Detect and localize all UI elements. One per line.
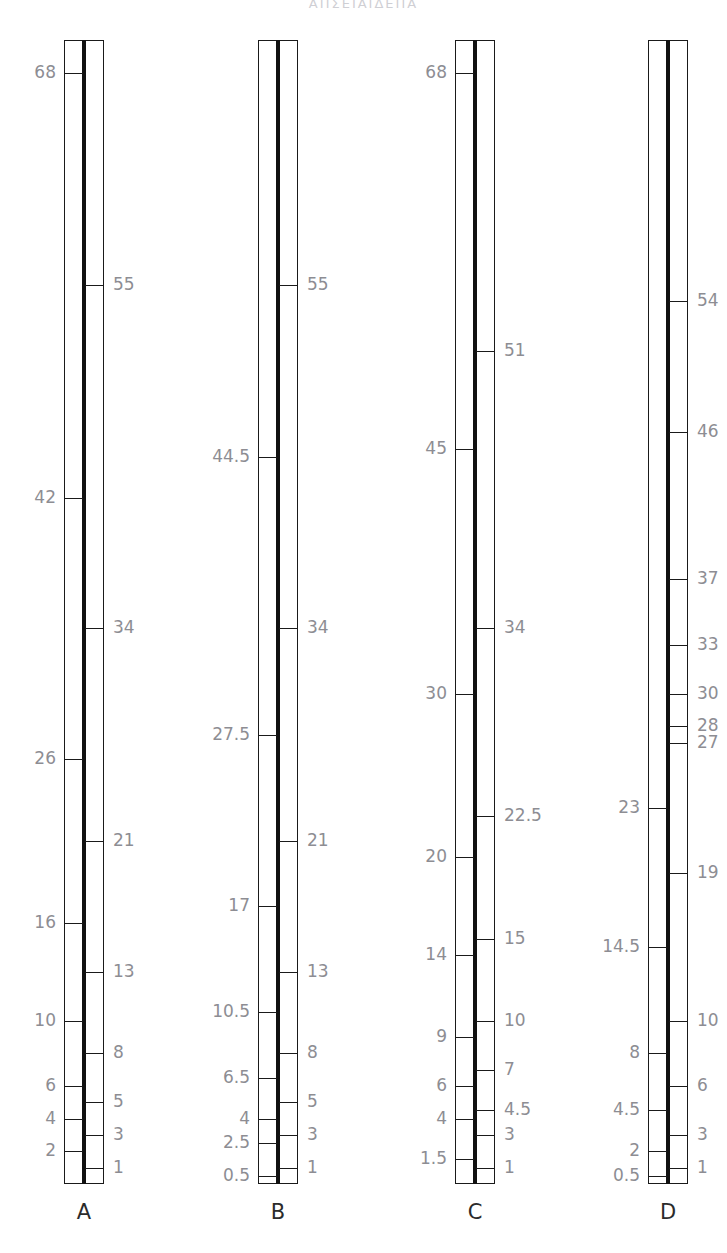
- center-axis-line-a: [82, 40, 86, 1184]
- tick-left-c-6: [455, 1086, 474, 1087]
- tick-label-left-c-14: 14: [357, 946, 447, 963]
- tick-right-c-34: [476, 628, 495, 629]
- tick-right-c-1: [476, 1168, 495, 1169]
- tick-label-right-d-46: 46: [697, 423, 727, 440]
- tick-left-c-14: [455, 955, 474, 956]
- tick-right-b-34: [279, 628, 298, 629]
- tick-left-d-2: [648, 1151, 667, 1152]
- tick-right-a-55: [85, 285, 104, 286]
- tick-left-b-10.5: [258, 1012, 277, 1013]
- tick-right-c-7: [476, 1070, 495, 1071]
- tick-left-d-0.5: [648, 1176, 667, 1177]
- tick-left-d-4.5: [648, 1110, 667, 1111]
- tick-left-b-17: [258, 906, 277, 907]
- tick-label-left-a-6: 6: [0, 1077, 56, 1094]
- tick-label-right-b-55: 55: [307, 276, 397, 293]
- tick-label-right-b-3: 3: [307, 1126, 397, 1143]
- tick-label-left-b-17: 17: [160, 897, 250, 914]
- tick-right-d-33: [669, 645, 688, 646]
- tick-label-right-d-27: 27: [697, 734, 727, 751]
- tick-right-c-22.5: [476, 816, 495, 817]
- tick-label-left-c-4: 4: [357, 1110, 447, 1127]
- tick-label-right-d-33: 33: [697, 636, 727, 653]
- tick-right-b-8: [279, 1053, 298, 1054]
- tick-left-a-2: [64, 1151, 83, 1152]
- tick-label-left-b-27.5: 27.5: [160, 726, 250, 743]
- tick-right-c-3: [476, 1135, 495, 1136]
- tick-right-d-28: [669, 726, 688, 727]
- tick-right-d-27: [669, 743, 688, 744]
- tick-left-d-8: [648, 1053, 667, 1054]
- tick-label-left-c-9: 9: [357, 1028, 447, 1045]
- tick-label-left-d-4.5: 4.5: [550, 1101, 640, 1118]
- tick-label-left-b-6.5: 6.5: [160, 1069, 250, 1086]
- tick-label-left-c-20: 20: [357, 848, 447, 865]
- tick-label-right-d-3: 3: [697, 1126, 727, 1143]
- tick-label-right-c-34: 34: [504, 619, 594, 636]
- tick-right-d-3: [669, 1135, 688, 1136]
- tick-label-left-a-2: 2: [0, 1142, 56, 1159]
- figure-header-title: ΑΠΣΕΙΑΙΔΕΠΑ: [0, 0, 727, 10]
- tick-label-left-b-0.5: 0.5: [160, 1167, 250, 1184]
- tick-right-a-34: [85, 628, 104, 629]
- tick-label-left-a-10: 10: [0, 1012, 56, 1029]
- tick-right-b-13: [279, 972, 298, 973]
- tick-right-a-5: [85, 1102, 104, 1103]
- tick-right-d-19: [669, 873, 688, 874]
- tick-right-b-5: [279, 1102, 298, 1103]
- tick-left-c-30: [455, 694, 474, 695]
- tick-label-right-c-51: 51: [504, 342, 594, 359]
- tick-label-left-b-10.5: 10.5: [160, 1003, 250, 1020]
- tick-label-left-c-6: 6: [357, 1077, 447, 1094]
- column-label-d: D: [638, 1202, 698, 1223]
- tick-right-c-10: [476, 1021, 495, 1022]
- tick-label-right-b-8: 8: [307, 1044, 397, 1061]
- tick-label-right-d-30: 30: [697, 685, 727, 702]
- tick-label-right-d-19: 19: [697, 864, 727, 881]
- tick-left-b-27.5: [258, 735, 277, 736]
- tick-left-b-44.5: [258, 457, 277, 458]
- tick-label-right-b-5: 5: [307, 1093, 397, 1110]
- tick-label-left-a-68: 68: [0, 64, 56, 81]
- tick-left-b-4: [258, 1119, 277, 1120]
- tick-label-left-a-26: 26: [0, 750, 56, 767]
- tick-label-right-a-34: 34: [113, 619, 203, 636]
- tick-right-a-8: [85, 1053, 104, 1054]
- tick-left-c-1.5: [455, 1159, 474, 1160]
- tick-left-c-45: [455, 449, 474, 450]
- tick-label-right-c-3: 3: [504, 1126, 594, 1143]
- tick-label-right-b-13: 13: [307, 963, 397, 980]
- tick-label-left-b-44.5: 44.5: [160, 448, 250, 465]
- tick-right-b-55: [279, 285, 298, 286]
- tick-label-right-a-55: 55: [113, 276, 203, 293]
- figure-root: ΑΠΣΕΙΑΙΔΕΠΑ 6842261610642553421138531A44…: [0, 0, 727, 1253]
- tick-label-left-b-2.5: 2.5: [160, 1134, 250, 1151]
- tick-right-d-46: [669, 432, 688, 433]
- tick-right-d-54: [669, 301, 688, 302]
- tick-right-d-37: [669, 579, 688, 580]
- tick-right-a-13: [85, 972, 104, 973]
- column-label-b: B: [248, 1202, 308, 1223]
- tick-left-a-4: [64, 1119, 83, 1120]
- tick-right-d-6: [669, 1086, 688, 1087]
- tick-right-b-3: [279, 1135, 298, 1136]
- center-axis-line-d: [666, 40, 670, 1184]
- tick-right-b-1: [279, 1168, 298, 1169]
- tick-label-right-d-10: 10: [697, 1012, 727, 1029]
- tick-label-left-d-8: 8: [550, 1044, 640, 1061]
- column-label-a: A: [54, 1202, 114, 1223]
- tick-label-left-c-1.5: 1.5: [357, 1150, 447, 1167]
- tick-right-d-1: [669, 1168, 688, 1169]
- tick-left-a-6: [64, 1086, 83, 1087]
- tick-label-left-c-30: 30: [357, 685, 447, 702]
- center-axis-line-c: [473, 40, 477, 1184]
- tick-left-c-9: [455, 1037, 474, 1038]
- tick-label-right-b-21: 21: [307, 832, 397, 849]
- tick-label-left-d-0.5: 0.5: [550, 1167, 640, 1184]
- tick-right-c-51: [476, 351, 495, 352]
- tick-label-left-c-45: 45: [357, 440, 447, 457]
- tick-left-a-16: [64, 923, 83, 924]
- tick-right-a-3: [85, 1135, 104, 1136]
- tick-label-left-c-68: 68: [357, 64, 447, 81]
- tick-left-c-68: [455, 73, 474, 74]
